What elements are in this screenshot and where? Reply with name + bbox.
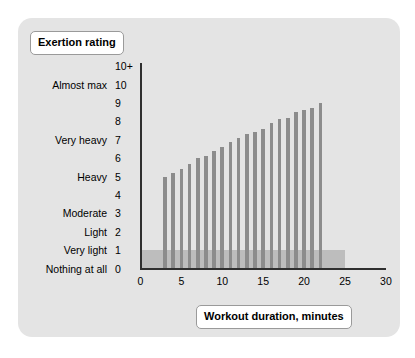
y-axis-tick-category: Moderate bbox=[63, 208, 107, 219]
y-axis-tick: 8 bbox=[20, 116, 135, 127]
y-axis-tick-category: Light bbox=[84, 227, 107, 238]
y-axis-tick: 6 bbox=[20, 153, 135, 164]
y-axis-line bbox=[140, 63, 142, 270]
y-axis-tick-category: Almost max bbox=[52, 80, 107, 91]
y-axis-tick-value: 10+ bbox=[115, 61, 135, 72]
bar bbox=[261, 129, 265, 269]
y-axis-tick-value: 0 bbox=[115, 264, 135, 275]
y-axis-tick: Heavy5 bbox=[20, 172, 135, 183]
bar bbox=[270, 123, 274, 268]
y-axis-tick-value: 3 bbox=[115, 208, 135, 219]
y-axis-tick-category: Very light bbox=[64, 245, 107, 256]
bar bbox=[245, 134, 249, 268]
y-axis-tick-value: 2 bbox=[115, 227, 135, 238]
bar bbox=[310, 108, 314, 268]
x-axis-tick: 15 bbox=[257, 276, 269, 287]
y-axis-tick: 9 bbox=[20, 98, 135, 109]
bar bbox=[163, 177, 167, 269]
y-axis-tick-category: Heavy bbox=[77, 172, 107, 183]
y-axis-tick: Very light1 bbox=[20, 245, 135, 256]
chart-figure: 10+Almost max1098Very heavy76Heavy54Mode… bbox=[0, 0, 415, 358]
y-axis-tick-value: 9 bbox=[115, 98, 135, 109]
bar bbox=[212, 151, 216, 269]
bar bbox=[237, 138, 241, 269]
y-axis-tick: 4 bbox=[20, 190, 135, 201]
bar bbox=[294, 112, 298, 268]
x-axis-tick: 0 bbox=[138, 276, 144, 287]
y-axis-tick-value: 7 bbox=[115, 135, 135, 146]
y-axis-tick: Very heavy7 bbox=[20, 135, 135, 146]
y-axis-tick-value: 5 bbox=[115, 172, 135, 183]
x-axis-tick: 10 bbox=[216, 276, 228, 287]
y-axis-tick-category: Very heavy bbox=[55, 135, 107, 146]
x-axis-tick: 30 bbox=[380, 276, 392, 287]
x-axis-line bbox=[140, 268, 386, 270]
bar bbox=[188, 164, 192, 269]
y-axis-tick-value: 1 bbox=[115, 245, 135, 256]
y-axis-tick-value: 4 bbox=[115, 190, 135, 201]
bar bbox=[196, 158, 200, 268]
bar bbox=[220, 147, 224, 268]
bar bbox=[204, 156, 208, 268]
x-axis-tick: 20 bbox=[298, 276, 310, 287]
x-axis-tick: 25 bbox=[339, 276, 351, 287]
y-axis-tick-value: 6 bbox=[115, 153, 135, 164]
y-axis-tick-value: 8 bbox=[115, 116, 135, 127]
bar bbox=[302, 110, 306, 268]
bar bbox=[229, 142, 233, 269]
bar bbox=[253, 132, 257, 268]
y-axis-tick: Moderate3 bbox=[20, 208, 135, 219]
y-axis-tick-category: Nothing at all bbox=[46, 264, 107, 275]
y-axis-tick: Nothing at all0 bbox=[20, 264, 135, 275]
bar bbox=[286, 118, 290, 269]
bar bbox=[319, 103, 323, 269]
y-axis-tick-value: 10 bbox=[115, 80, 135, 91]
y-axis-tick: Light2 bbox=[20, 227, 135, 238]
x-axis-tick: 5 bbox=[178, 276, 184, 287]
y-axis-tick: Almost max10 bbox=[20, 80, 135, 91]
y-axis-tick: 10+ bbox=[20, 61, 135, 72]
bar bbox=[278, 119, 282, 268]
x-axis-tick-labels: 051015202530 bbox=[0, 276, 415, 292]
x-axis-title: Workout duration, minutes bbox=[196, 305, 352, 329]
bar bbox=[180, 169, 184, 268]
y-axis-title: Exertion rating bbox=[30, 31, 124, 55]
bar bbox=[171, 173, 175, 269]
